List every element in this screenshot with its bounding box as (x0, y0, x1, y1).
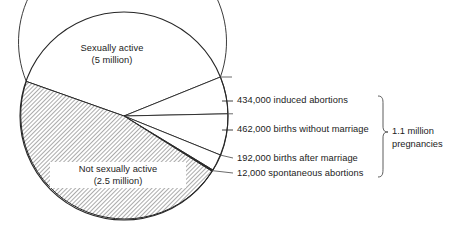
bracket-label-line1: 1.1 million (392, 125, 443, 138)
callout-births-without-marriage: 462,000 births without marriage (237, 124, 369, 134)
pie-chart-svg (0, 0, 452, 238)
slice-label-sexually-active-name: Sexually active (42, 42, 182, 54)
slice-label-sexually-active-value: (5 million) (42, 54, 182, 66)
bracket-label-pregnancies: 1.1 million pregnancies (392, 125, 443, 150)
pie-chart-figure: Sexually active (5 million) Not sexually… (0, 0, 452, 238)
callout-induced-abortions: 434,000 induced abortions (237, 95, 348, 105)
slice-label-not-sexually-active-name: Not sexually active (53, 163, 183, 175)
slice-label-not-sexually-active: Not sexually active (2.5 million) (50, 162, 186, 188)
callout-spontaneous-abortions: 12,000 spontaneous abortions (237, 168, 364, 178)
slice-label-sexually-active: Sexually active (5 million) (42, 42, 182, 66)
leader-line-births-after-marriage (221, 155, 233, 158)
bracket-label-line2: pregnancies (392, 138, 443, 151)
pregnancies-bracket (378, 96, 388, 177)
slice-label-not-sexually-active-value: (2.5 million) (53, 175, 183, 187)
leader-line-spontaneous-abortions (213, 171, 233, 173)
callout-births-after-marriage: 192,000 births after marriage (237, 153, 358, 163)
